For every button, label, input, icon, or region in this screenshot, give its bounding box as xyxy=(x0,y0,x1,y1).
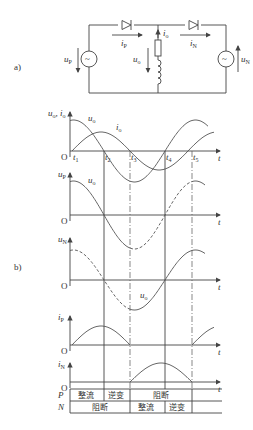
time-mark-label: t5 xyxy=(193,152,199,163)
origin-label: O xyxy=(61,152,68,162)
label-ip: iP xyxy=(121,38,128,49)
cell-p-block: 阻断 xyxy=(153,390,169,400)
state-table: P N 整流 逆变 阻断 阻断 整流 逆变 xyxy=(57,389,222,413)
time-label: t xyxy=(218,347,221,357)
panel-label-a: a) xyxy=(14,62,21,72)
time-mark-label: t1 xyxy=(73,152,79,163)
origin-label: O xyxy=(61,346,68,356)
uo-curve-label: uo xyxy=(88,175,96,186)
source-un: ~ xyxy=(218,51,234,67)
uo-curve-label: uo xyxy=(140,290,148,301)
label-io: io xyxy=(163,28,169,39)
label-in: iN xyxy=(190,38,198,49)
label-un: uN xyxy=(241,54,251,65)
panel-label-b: b) xyxy=(14,262,22,272)
time-label: t xyxy=(218,282,221,292)
cell-n-rectify: 整流 xyxy=(138,402,154,412)
circuit-diagram: a) ~ ~ xyxy=(14,20,251,93)
cell-n-invert: 逆变 xyxy=(169,402,185,412)
row-label-p: P xyxy=(57,390,64,400)
y-axis-label: iP xyxy=(58,312,65,323)
up-curve-solid xyxy=(192,181,205,185)
cell-p-invert: 逆变 xyxy=(108,390,124,400)
y-axis-label: iN xyxy=(58,359,66,370)
label-uo: uo xyxy=(133,54,141,65)
tilde-icon: ~ xyxy=(85,54,90,64)
ip-curve xyxy=(192,327,214,345)
inductor-icon xyxy=(155,60,163,88)
resistor-icon xyxy=(155,40,161,56)
in-curve xyxy=(130,363,192,382)
cell-n-block: 阻断 xyxy=(92,402,108,412)
figure: a) ~ ~ xyxy=(0,0,253,430)
time-label: t xyxy=(218,153,221,163)
diode-n-icon xyxy=(185,20,201,30)
y-axis-label: uN xyxy=(58,234,68,245)
time-mark-label: t3 xyxy=(131,152,137,163)
io-curve-label: io xyxy=(116,122,122,133)
cell-p-rectify: 整流 xyxy=(78,390,94,400)
source-up: ~ xyxy=(81,51,97,67)
origin-label: O xyxy=(61,216,68,226)
time-mark-label: t4 xyxy=(166,152,172,163)
ip-curve xyxy=(72,326,130,345)
origin-label: O xyxy=(61,281,68,291)
row-label-n: N xyxy=(57,402,65,412)
y-axis-label: uo, io xyxy=(48,108,66,119)
diode-p-icon xyxy=(118,20,134,30)
time-label: t xyxy=(218,217,221,227)
waveform-diagram: Otuo, ioOtuPOtuNOtiPOtiNt1t2t3t4t5uoiouo… xyxy=(48,108,221,394)
tilde-icon: ~ xyxy=(222,54,227,64)
y-axis-label: uP xyxy=(58,169,67,180)
label-up: uP xyxy=(64,54,73,65)
uo-curve-label: uo xyxy=(88,113,96,124)
